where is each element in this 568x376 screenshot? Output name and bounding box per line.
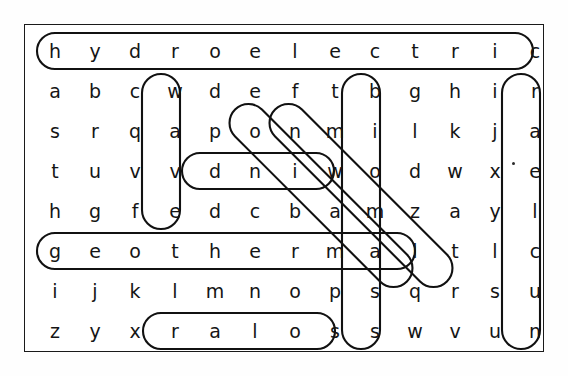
letter-cell[interactable]: s [38,111,72,151]
letter-cell[interactable]: x [118,311,152,351]
letter-cell[interactable]: a [158,111,192,151]
letter-cell[interactable]: x [478,151,512,191]
letter-cell[interactable]: g [78,191,112,231]
letter-cell[interactable]: o [118,231,152,271]
letter-cell[interactable]: b [78,71,112,111]
letter-cell[interactable]: u [518,271,552,311]
letter-cell[interactable]: d [198,191,232,231]
letter-cell[interactable]: i [278,151,312,191]
letter-cell[interactable]: y [78,31,112,71]
letter-cell[interactable]: a [518,111,552,151]
letter-cell[interactable]: z [398,191,432,231]
letter-cell[interactable]: l [518,191,552,231]
letter-cell[interactable]: c [358,31,392,71]
letter-cell[interactable]: o [198,31,232,71]
letter-cell[interactable]: a [318,191,352,231]
letter-cell[interactable]: w [158,71,192,111]
letter-cell[interactable]: m [358,191,392,231]
letter-cell[interactable]: c [518,231,552,271]
letter-cell[interactable]: h [38,31,72,71]
letter-cell[interactable]: k [118,271,152,311]
letter-cell[interactable]: n [238,271,272,311]
letter-cell[interactable]: f [278,71,312,111]
letter-cell[interactable]: r [158,31,192,71]
letter-cell[interactable]: w [318,151,352,191]
letter-cell[interactable]: c [238,191,272,231]
letter-cell[interactable]: j [478,111,512,151]
letter-cell[interactable]: l [238,311,272,351]
letter-cell[interactable]: u [478,311,512,351]
letter-cell[interactable]: n [278,111,312,151]
letter-cell[interactable]: l [398,231,432,271]
letter-cell[interactable]: o [278,271,312,311]
letter-cell[interactable]: w [398,311,432,351]
letter-cell[interactable]: f [118,191,152,231]
letter-cell[interactable]: o [238,111,272,151]
letter-cell[interactable]: m [318,111,352,151]
letter-cell[interactable]: e [238,31,272,71]
letter-cell[interactable]: u [78,151,112,191]
letter-cell[interactable]: c [518,31,552,71]
letter-cell[interactable]: v [158,151,192,191]
letter-cell[interactable]: h [38,191,72,231]
letter-cell[interactable]: l [278,31,312,71]
letter-cell[interactable]: l [478,231,512,271]
letter-cell[interactable]: a [438,191,472,231]
letter-cell[interactable]: i [478,31,512,71]
letter-cell[interactable]: e [238,71,272,111]
letter-cell[interactable]: r [518,71,552,111]
letter-cell[interactable]: a [38,71,72,111]
letter-cell[interactable]: s [478,271,512,311]
letter-cell[interactable]: d [118,31,152,71]
letter-cell[interactable]: b [358,71,392,111]
letter-cell[interactable]: m [198,271,232,311]
letter-cell[interactable]: e [318,31,352,71]
letter-cell[interactable]: a [198,311,232,351]
letter-cell[interactable]: w [438,151,472,191]
letter-cell[interactable]: e [78,231,112,271]
letter-cell[interactable]: r [438,271,472,311]
letter-cell[interactable]: o [278,311,312,351]
letter-cell[interactable]: i [358,111,392,151]
letter-cell[interactable]: m [318,231,352,271]
letter-cell[interactable]: d [398,151,432,191]
letter-cell[interactable]: v [438,311,472,351]
letter-cell[interactable]: s [318,311,352,351]
letter-cell[interactable]: e [158,191,192,231]
letter-cell[interactable]: o [358,151,392,191]
letter-cell[interactable]: q [118,111,152,151]
letter-cell[interactable]: s [358,311,392,351]
letter-cell[interactable]: l [398,111,432,151]
letter-cell[interactable]: y [78,311,112,351]
letter-cell[interactable]: t [318,71,352,111]
letter-cell[interactable]: r [278,231,312,271]
letter-cell[interactable]: n [238,151,272,191]
letter-cell[interactable]: r [78,111,112,151]
letter-cell[interactable]: c [118,71,152,111]
letter-cell[interactable]: h [198,231,232,271]
letter-cell[interactable]: e [518,151,552,191]
letter-cell[interactable]: r [158,311,192,351]
letter-cell[interactable]: t [38,151,72,191]
letter-cell[interactable]: g [398,71,432,111]
letter-cell[interactable]: y [478,191,512,231]
letter-cell[interactable]: q [398,271,432,311]
letter-cell[interactable]: t [398,31,432,71]
letter-cell[interactable]: i [478,71,512,111]
letter-cell[interactable]: z [38,311,72,351]
letter-cell[interactable]: i [38,271,72,311]
letter-cell[interactable]: l [158,271,192,311]
letter-cell[interactable]: b [278,191,312,231]
letter-cell[interactable]: v [118,151,152,191]
letter-cell[interactable]: p [198,111,232,151]
letter-cell[interactable]: d [198,151,232,191]
letter-cell[interactable]: r [438,31,472,71]
letter-cell[interactable]: t [438,231,472,271]
letter-cell[interactable]: d [198,71,232,111]
letter-cell[interactable]: t [158,231,192,271]
letter-cell[interactable]: s [358,271,392,311]
letter-cell[interactable]: j [78,271,112,311]
letter-cell[interactable]: p [318,271,352,311]
letter-cell[interactable]: a [358,231,392,271]
letter-cell[interactable]: h [438,71,472,111]
